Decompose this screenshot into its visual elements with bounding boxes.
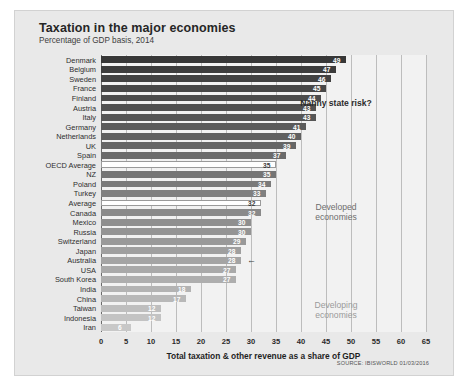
bar-row: 28Australia← (101, 257, 426, 264)
category-label: Belgium (69, 65, 96, 74)
category-label: Turkey (74, 189, 96, 198)
category-label: Average (69, 199, 96, 208)
bar-row: 43Italy (101, 114, 426, 121)
x-tick-label: 5 (124, 337, 128, 346)
bar (101, 114, 316, 121)
x-tick-label: 55 (372, 337, 380, 346)
chart-subtitle: Percentage of GDP basis, 2014 (39, 36, 154, 45)
category-label: Canada (70, 208, 96, 217)
bar-row: 45France (101, 85, 426, 92)
bar-value-label: 27 (223, 266, 230, 273)
bar-value-label: 28 (228, 257, 235, 264)
x-tick-label: 45 (322, 337, 330, 346)
bar-row: 27USA (101, 266, 426, 273)
x-tick-label: 0 (99, 337, 103, 346)
bar (101, 209, 261, 216)
chart-title: Taxation in the major economies (39, 21, 236, 35)
x-tick-label: 35 (272, 337, 280, 346)
bar (101, 190, 266, 197)
x-tick-label: 25 (222, 337, 230, 346)
bar (101, 152, 286, 159)
bar (101, 200, 261, 207)
chart-panel: Taxation in the major economies Percenta… (14, 10, 454, 376)
category-label: Austria (73, 103, 96, 112)
x-tick-label: 65 (422, 337, 430, 346)
bar-value-label: 45 (313, 85, 320, 92)
bar (101, 75, 331, 82)
category-label: Italy (82, 113, 96, 122)
annotation-developing-economies: Developing economies (266, 301, 406, 321)
x-tick-label: 50 (347, 337, 355, 346)
gridline (426, 55, 427, 332)
bar-row: 28Japan (101, 247, 426, 254)
category-label: USA (81, 265, 96, 274)
category-label: Iran (83, 323, 96, 332)
category-label: Australia (67, 256, 96, 265)
bar-value-label: 39 (283, 142, 290, 149)
bar-value-label: 41 (293, 123, 300, 130)
bar-row: 34Poland (101, 181, 426, 188)
bar-row: 29Switzerland (101, 238, 426, 245)
bar (101, 56, 346, 63)
bar-row: 35NZ (101, 171, 426, 178)
bar-value-label: 47 (323, 66, 330, 73)
bar-value-label: 18 (178, 286, 185, 293)
category-label: Indonesia (64, 313, 96, 322)
x-tick-label: 10 (147, 337, 155, 346)
bar-value-label: 35 (263, 171, 270, 178)
bar (101, 142, 296, 149)
x-tick-label: 40 (297, 337, 305, 346)
bar (101, 161, 276, 168)
x-tick-label: 60 (397, 337, 405, 346)
category-label: China (77, 294, 96, 303)
bar-row: 18India (101, 286, 426, 293)
bar-value-label: 46 (318, 75, 325, 82)
category-label: Taiwan (73, 304, 96, 313)
bar-value-label: 49 (333, 56, 340, 63)
bar (101, 123, 306, 130)
bar-row: 47Belgium (101, 66, 426, 73)
bar (101, 257, 241, 264)
bar-value-label: 43 (303, 114, 310, 121)
category-label: Russia (73, 227, 96, 236)
bar (101, 324, 131, 331)
bar (101, 66, 336, 73)
bar (101, 133, 301, 140)
category-label: France (73, 84, 96, 93)
bar-value-label: 37 (273, 152, 280, 159)
bar (101, 266, 236, 273)
australia-marker-icon: ← (247, 256, 256, 265)
bar-value-label: 29 (233, 238, 240, 245)
bar (101, 219, 251, 226)
bar-row: 46Sweden (101, 75, 426, 82)
category-label: UK (86, 141, 96, 150)
bar (101, 171, 276, 178)
plot-area: 49Denmark47Belgium46Sweden45France44Finl… (101, 55, 426, 332)
bar (101, 85, 326, 92)
category-label: NZ (86, 170, 96, 179)
bar-value-label: 17 (173, 295, 180, 302)
annotation-nanny-state: Nanny state risk? (266, 99, 406, 109)
bar-value-label: 12 (148, 314, 155, 321)
bar-row: 27South Korea (101, 276, 426, 283)
bar-row: 37Spain (101, 152, 426, 159)
bar-row: 30Russia (101, 228, 426, 235)
bar-row: 6Iran (101, 324, 426, 331)
bar-value-label: 32 (248, 200, 255, 207)
bar (101, 276, 236, 283)
bar-row: 41Germany (101, 123, 426, 130)
bar (101, 228, 251, 235)
bar-value-label: 32 (248, 209, 255, 216)
source-note: SOURCE: IBISWORLD 01/03/2016 (337, 360, 429, 366)
category-label: Mexico (73, 218, 96, 227)
bar-row: 49Denmark (101, 56, 426, 63)
bar-value-label: 28 (228, 247, 235, 254)
bar (101, 181, 271, 188)
bar-row: 33Turkey (101, 190, 426, 197)
category-label: Sweden (69, 74, 96, 83)
category-label: Spain (77, 151, 96, 160)
bar-value-label: 12 (148, 305, 155, 312)
category-label: Japan (76, 246, 96, 255)
bar-row: 35OECD Average (101, 161, 426, 168)
bar (101, 238, 246, 245)
